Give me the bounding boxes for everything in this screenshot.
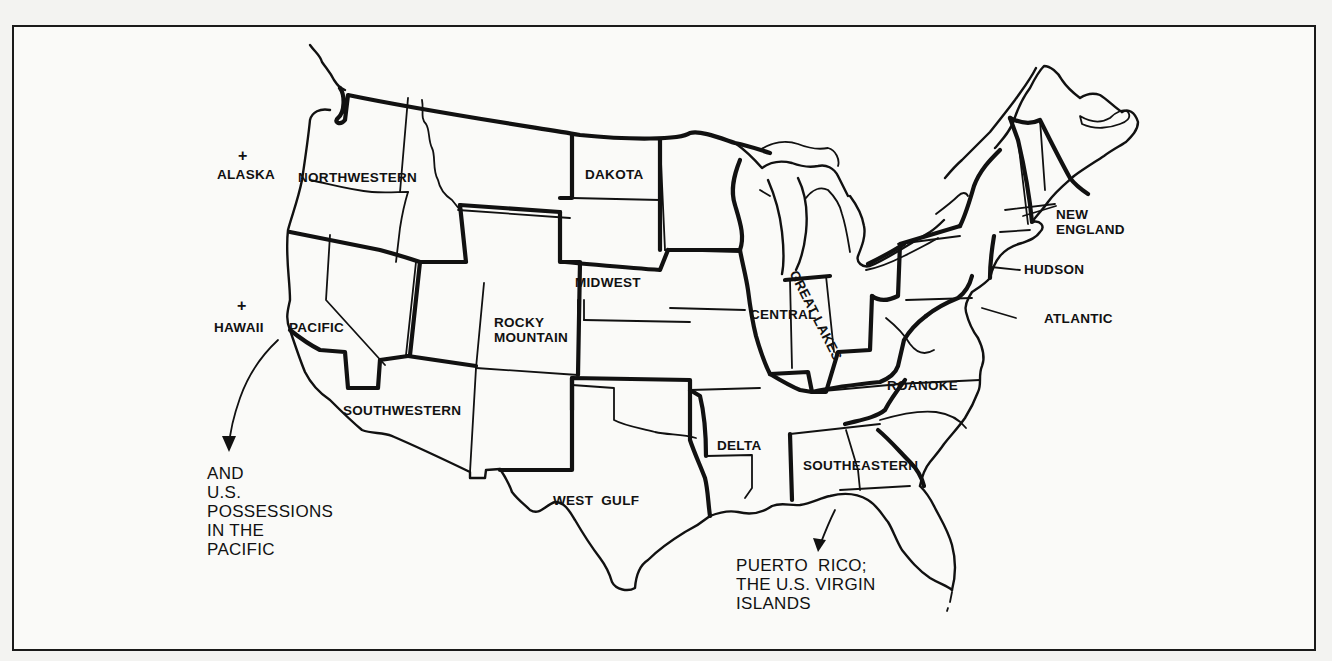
hudson-leader: [991, 267, 1020, 270]
region-label-dakota: DAKOTA: [585, 167, 644, 182]
region-label-midwest: MIDWEST: [575, 275, 641, 290]
pacific-arrow-head: [222, 436, 236, 452]
hawaii-marker-icon: +: [237, 298, 246, 314]
alaska-marker-icon: +: [238, 148, 247, 164]
region-label-northwestern: NORTHWESTERN: [298, 170, 417, 185]
region-label-west-gulf: WEST GULF: [553, 493, 639, 508]
region-label-pacific: PACIFIC: [289, 320, 344, 335]
region-label-delta: DELTA: [717, 438, 762, 453]
region-label-hudson: HUDSON: [1024, 262, 1084, 277]
puerto-rico-annotation: PUERTO RICO; THE U.S. VIRGIN ISLANDS: [736, 556, 876, 613]
great-lakes-outline: [735, 142, 968, 274]
region-label-roanoke: ROANOKE: [887, 378, 958, 393]
pacific-possessions-annotation: AND U.S. POSSESSIONS IN THE PACIFIC: [207, 464, 333, 559]
alaska-label: ALASKA: [217, 167, 275, 182]
hawaii-label: HAWAII: [214, 320, 264, 335]
region-label-southeastern: SOUTHEASTERN: [803, 458, 918, 473]
atlantic-leader: [982, 308, 1016, 318]
region-label-southwestern: SOUTHWESTERN: [343, 403, 461, 418]
puerto-rico-arrow-head: [813, 538, 826, 552]
us-regions-map: [0, 0, 1332, 661]
region-label-rocky-mountain: ROCKY MOUNTAIN: [494, 315, 568, 345]
pacific-arrow-line: [229, 340, 278, 446]
region-label-new-england: NEW ENGLAND: [1056, 207, 1125, 237]
state-borders: [310, 98, 1055, 498]
region-label-atlantic: ATLANTIC: [1044, 311, 1113, 326]
